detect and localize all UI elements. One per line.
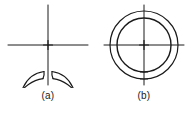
- figure-panel-b: (b): [96, 0, 192, 113]
- ring-drawing-a: [0, 2, 96, 88]
- caption-b: (b): [96, 90, 192, 102]
- ring-drawing-b: [96, 2, 192, 88]
- figure-panel-a: (a): [0, 0, 96, 113]
- gap-end-left-a: [43, 72, 44, 79]
- gap-end-right-a: [52, 72, 53, 79]
- figure-sheet: (a): [0, 0, 192, 113]
- caption-a: (a): [0, 90, 96, 102]
